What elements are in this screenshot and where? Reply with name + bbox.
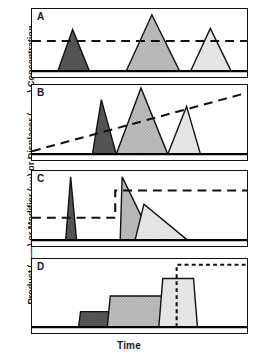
panel-a-letter: A	[37, 11, 45, 22]
panel-b-letter: B	[37, 87, 45, 98]
panel-a-plot	[32, 9, 247, 77]
panel-a: A	[31, 8, 248, 78]
peak-medium	[116, 88, 168, 154]
panel-d-plot	[32, 259, 247, 333]
panel-c-peaks	[66, 177, 188, 240]
peak-medium	[126, 15, 180, 71]
panel-d: D	[31, 258, 248, 334]
panel-b-plot	[32, 85, 247, 160]
x-axis-label: Time	[0, 340, 258, 351]
figure-container: Product (——) or Modifier (····) or Displ…	[0, 0, 258, 357]
peak-dark-spike	[66, 177, 77, 240]
band-medium	[107, 296, 165, 327]
panel-c-plot	[32, 171, 247, 246]
panel-d-bands	[79, 278, 198, 327]
peak-light-tailing	[135, 204, 188, 240]
peak-dark	[58, 29, 90, 71]
peak-light	[191, 28, 232, 71]
panel-d-letter: D	[37, 261, 45, 272]
band-light	[159, 278, 198, 327]
panel-c: C	[31, 170, 248, 247]
peak-dark	[92, 100, 116, 155]
panel-c-letter: C	[37, 173, 45, 184]
panel-b-peaks	[92, 88, 200, 154]
panel-b: B	[31, 84, 248, 161]
peak-light	[168, 106, 201, 154]
panel-a-peaks	[58, 15, 231, 71]
